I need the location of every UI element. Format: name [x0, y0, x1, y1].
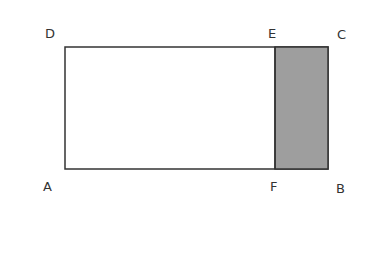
- rectangle-diagram: D E C A F B: [0, 0, 367, 258]
- label-d: D: [45, 26, 55, 41]
- label-f: F: [270, 179, 277, 194]
- label-b: B: [336, 181, 345, 196]
- label-a: A: [43, 179, 52, 194]
- shaded-region-efbc: [275, 47, 328, 169]
- label-c: C: [337, 27, 346, 42]
- label-e: E: [268, 26, 276, 41]
